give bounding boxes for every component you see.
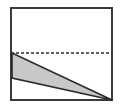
figure-container (0, 0, 122, 110)
geometry-figure (0, 0, 122, 110)
figure-background (0, 0, 122, 110)
